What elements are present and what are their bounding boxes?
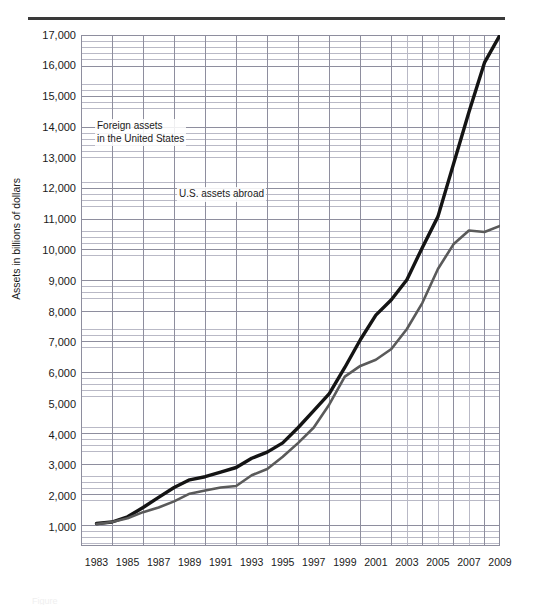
series-line — [97, 226, 500, 524]
x-axis-tick-labels: 1983198519871989199119931995199719992001… — [81, 556, 500, 570]
y-axis-tick: 7,000 — [14, 337, 76, 348]
y-axis-tick: 14,000 — [14, 122, 76, 133]
y-axis-tick: 4,000 — [14, 430, 76, 441]
y-axis-tick: 9,000 — [14, 276, 76, 287]
figure-root: Assets in billions of dollars 17,00016,0… — [0, 0, 533, 605]
y-axis-tick-labels: 17,00016,00015,00014,00013,00012,00011,0… — [10, 35, 76, 546]
series-lines — [81, 35, 500, 546]
y-axis-tick: 15,000 — [14, 91, 76, 102]
series-line — [97, 35, 500, 524]
y-axis-tick: 3,000 — [14, 460, 76, 471]
x-axis-tick: 2009 — [480, 556, 520, 568]
plot-area: Foreign assets in the United States U.S.… — [81, 35, 500, 546]
y-axis-tick: 5,000 — [14, 399, 76, 410]
y-axis-tick: 10,000 — [14, 245, 76, 256]
annotation-us-assets-abroad: U.S. assets abroad — [177, 187, 266, 202]
y-axis-tick: 16,000 — [14, 60, 76, 71]
top-rule — [28, 17, 505, 20]
y-axis-tick: 13,000 — [14, 153, 76, 164]
y-axis-tick: 17,000 — [14, 30, 76, 41]
annotation-foreign-assets: Foreign assets in the United States — [95, 119, 186, 146]
y-axis-tick: 11,000 — [14, 214, 76, 225]
y-axis-tick: 6,000 — [14, 368, 76, 379]
y-axis-tick: 2,000 — [14, 491, 76, 502]
y-axis-tick: 8,000 — [14, 307, 76, 318]
footer-caption-fragment: Figure — [32, 596, 232, 605]
y-axis-tick: 1,000 — [14, 522, 76, 533]
y-axis-tick: 12,000 — [14, 183, 76, 194]
